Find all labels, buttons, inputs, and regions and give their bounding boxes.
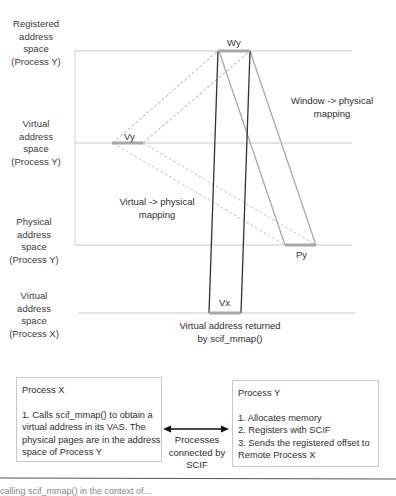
label-line: address (4, 229, 64, 242)
label-line: address (6, 131, 66, 144)
virtual-mapping-annotation: Virtual -> physical mapping (102, 196, 212, 221)
process-x-line: space of Process Y (22, 446, 156, 459)
label-line: address (6, 31, 66, 44)
process-x-title: Process X (22, 384, 156, 397)
dashed-vy-wy-left (113, 51, 218, 143)
wy-region-bar (218, 50, 250, 53)
process-y-line: 3. Sends the registered offset to (238, 437, 373, 450)
connector-label-line: SCIF (160, 459, 234, 472)
label-line: space (6, 43, 66, 56)
dark-wy-vx-right (241, 51, 250, 313)
label-registered-space: Registered address space (Process Y) (6, 18, 66, 68)
annotation-line: mapping (102, 209, 212, 222)
label-line: (Process Y) (4, 254, 64, 267)
label-line: Physical (4, 216, 64, 229)
process-y-title: Process Y (238, 387, 373, 400)
label-line: space (6, 143, 66, 156)
annotation-line: by scif_mmap() (165, 333, 295, 346)
annotation-line: mapping (272, 108, 392, 121)
connector-label-line: connected by (160, 447, 234, 460)
gray-wy-py-left (219, 51, 285, 245)
connector-label: Processes connected by SCIF (160, 434, 234, 472)
returned-address-annotation: Virtual address returned by scif_mmap() (165, 320, 295, 345)
annotation-line: Virtual -> physical (102, 196, 212, 209)
label-physical-y-space: Physical address space (Process Y) (4, 216, 64, 266)
py-label: Py (296, 249, 307, 260)
label-line: (Process Y) (6, 156, 66, 169)
label-virtual-x-space: Virtual address space (Process X) (4, 290, 64, 340)
dashed-vy-wy-right (143, 51, 250, 143)
vx-region-bar (209, 312, 241, 315)
gray-wy-py-right (250, 51, 316, 245)
label-line: address (4, 303, 64, 316)
label-line: (Process Y) (6, 56, 66, 69)
vx-label: Vx (219, 297, 230, 308)
process-x-line: virtual address in its VAS. The (22, 421, 156, 434)
process-x-box: Process X 1. Calls scif_mmap() to obtain… (16, 377, 162, 462)
process-y-line: 2. Registers with SCIF (238, 424, 373, 437)
process-x-line: 1. Calls scif_mmap() to obtain a (22, 409, 156, 422)
bottom-divider (0, 478, 396, 479)
wy-label: Wy (227, 37, 241, 48)
process-y-box: Process Y 1. Allocates memory 2. Registe… (232, 380, 379, 467)
label-line: space (4, 241, 64, 254)
connector-label-line: Processes (160, 434, 234, 447)
label-line: Virtual (6, 118, 66, 131)
arrowhead-right-icon (221, 426, 229, 433)
label-virtual-y-space: Virtual address space (Process Y) (6, 118, 66, 168)
annotation-line: Window -> physical (272, 95, 392, 108)
dashed-vy-py-left (113, 143, 285, 245)
label-line: Registered (6, 18, 66, 31)
vy-label: Vy (124, 131, 135, 142)
dashed-vy-py-right (143, 143, 316, 245)
label-line: space (4, 315, 64, 328)
py-region-bar (285, 244, 316, 247)
process-y-line: Remote Process X (238, 449, 373, 462)
window-mapping-annotation: Window -> physical mapping (272, 95, 392, 120)
dark-wy-vx-left (209, 51, 218, 313)
label-line: (Process X) (4, 328, 64, 341)
annotation-line: Virtual address returned (165, 320, 295, 333)
label-line: Virtual (4, 290, 64, 303)
process-x-line: physical pages are in the address (22, 434, 156, 447)
footer-text: calling scif_mmap() in the context of... (0, 486, 151, 496)
arrowhead-left-icon (163, 426, 171, 433)
process-y-line: 1. Allocates memory (238, 412, 373, 425)
